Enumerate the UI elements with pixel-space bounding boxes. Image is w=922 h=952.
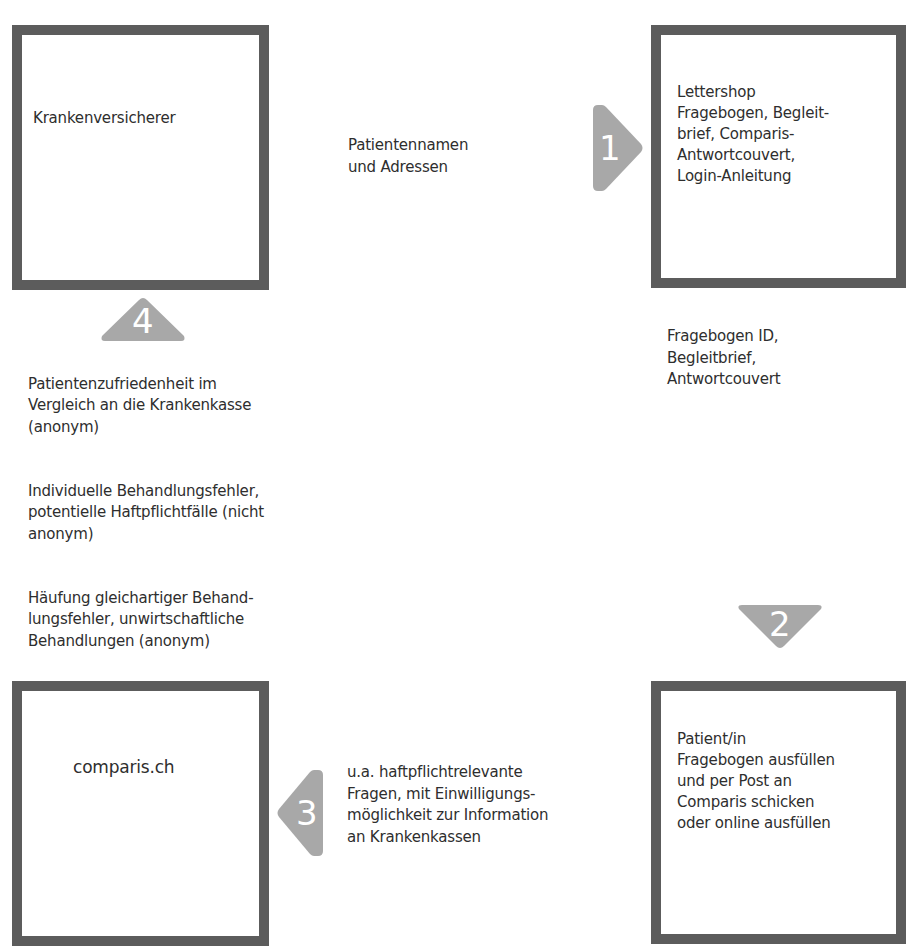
step-2-description: Fragebogen ID, Begleitbrief, Antwortcouv…	[667, 326, 780, 391]
node-krankenversicherer-label: Krankenversicherer	[33, 108, 175, 129]
step-4-number: 4	[132, 304, 154, 338]
node-comparis	[12, 681, 269, 946]
step-1-description: Patientennamen und Adressen	[348, 135, 468, 178]
step-3-description: u.a. haftpflichtrelevante Fragen, mit Ei…	[347, 762, 548, 848]
step-4-description-aggregated-errors: Häufung gleichartiger Behand- lungsfehle…	[28, 588, 264, 653]
step-4-description-individual-errors: Individuelle Behandlungsfehler, potentie…	[28, 481, 264, 546]
node-patient-label: Patient/in Fragebogen ausfüllen und per …	[677, 729, 835, 834]
node-lettershop-label: Lettershop Fragebogen, Begleit- brief, C…	[677, 82, 829, 187]
step-3-number: 3	[296, 796, 318, 830]
node-krankenversicherer	[12, 25, 269, 290]
step-4-arrow-up-icon: 4	[99, 296, 187, 342]
step-4-description-list: Patientenzufriedenheit im Vergleich an d…	[28, 352, 264, 695]
step-2-number: 2	[769, 607, 791, 641]
step-3-arrow-left-icon: 3	[276, 769, 324, 857]
step-4-description-satisfaction: Patientenzufriedenheit im Vergleich an d…	[28, 374, 264, 439]
step-1-number: 1	[599, 131, 621, 165]
step-2-arrow-down-icon: 2	[736, 604, 824, 649]
step-1-arrow-right-icon: 1	[592, 104, 644, 192]
node-comparis-label: comparis.ch	[73, 757, 174, 778]
